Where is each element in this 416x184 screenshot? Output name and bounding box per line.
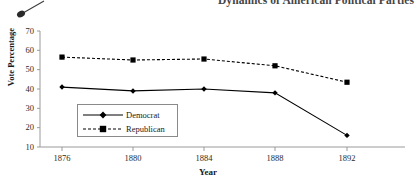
vote-percentage-line-chart: Vote Percentage Year 10203040506070 1876… <box>0 0 416 184</box>
chart-legend: Democrat Republican <box>77 104 178 137</box>
legend-key-democrat <box>82 109 124 121</box>
y-tick-label: 60 <box>12 45 34 55</box>
y-tick-label: 50 <box>12 64 34 74</box>
chart-page: Dynamics of American Political Parties V… <box>0 0 416 184</box>
x-tick-label: 1892 <box>327 153 367 163</box>
y-tick-label: 40 <box>12 84 34 94</box>
x-tick-label: 1876 <box>42 153 82 163</box>
legend-label-democrat: Democrat <box>126 110 160 120</box>
y-tick-label: 30 <box>12 103 34 113</box>
y-tick-label: 70 <box>12 26 34 36</box>
y-tick-label: 20 <box>12 122 34 132</box>
legend-key-republican <box>82 123 124 135</box>
x-tick-label: 1888 <box>255 153 295 163</box>
x-tick-label: 1884 <box>184 153 224 163</box>
legend-item-democrat: Democrat <box>78 108 179 122</box>
y-tick-label: 10 <box>12 142 34 152</box>
legend-item-republican: Republican <box>78 122 179 136</box>
legend-label-republican: Republican <box>126 124 165 134</box>
x-tick-label: 1880 <box>113 153 153 163</box>
